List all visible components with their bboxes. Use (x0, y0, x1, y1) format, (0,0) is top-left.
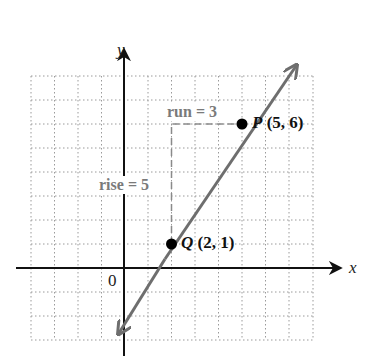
line-through-pq (165, 66, 296, 259)
rise-run-dashes (172, 124, 243, 244)
run-label: run = 3 (165, 103, 219, 121)
rise-label: rise = 5 (97, 176, 151, 194)
coordinate-plane (0, 0, 374, 363)
point-q-label: Q (2, 1) (181, 233, 234, 253)
y-axis-label: y (117, 40, 125, 60)
point-p (237, 119, 248, 130)
point-p-label: P (5, 6) (252, 113, 303, 133)
origin-label: 0 (108, 271, 117, 291)
point-q (166, 239, 177, 250)
x-axis-label: x (349, 258, 357, 278)
